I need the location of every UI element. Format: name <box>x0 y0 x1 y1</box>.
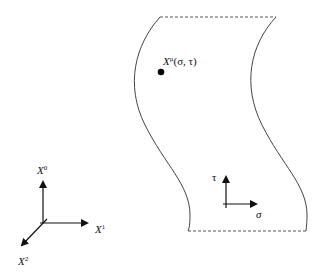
point-label-args: (σ, τ) <box>174 55 197 67</box>
point-label: Xμ(σ, τ) <box>163 56 197 67</box>
worldsheet-point-dot <box>158 69 165 76</box>
x2-sup: 2 <box>25 255 29 263</box>
x2-base: X <box>18 255 25 267</box>
spacetime-axes-icon <box>22 182 87 245</box>
x0-sup: 0 <box>44 164 48 172</box>
worldsheet-left-boundary <box>134 17 190 231</box>
sigma-axis-label: σ <box>256 209 261 220</box>
x1-base: X <box>95 223 102 235</box>
worldsheet-right-boundary <box>251 17 307 231</box>
x1-sup: 1 <box>102 223 106 231</box>
point-label-base: X <box>163 55 170 67</box>
diagram-canvas <box>0 0 324 276</box>
x0-axis-label: X0 <box>37 165 47 176</box>
x1-axis-label: X1 <box>95 224 105 235</box>
x0-base: X <box>37 164 44 176</box>
worldsheet-axes-icon <box>223 177 256 208</box>
x2-axis-label: X2 <box>18 256 28 267</box>
tau-axis-label: τ <box>212 172 216 183</box>
